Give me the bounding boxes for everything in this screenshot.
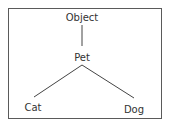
node-pet: Pet: [74, 53, 90, 63]
edge-pet-dog: [82, 65, 134, 98]
node-object: Object: [66, 13, 99, 23]
node-cat: Cat: [24, 103, 41, 113]
node-dog: Dog: [124, 105, 144, 115]
edge-pet-cat: [34, 65, 82, 97]
